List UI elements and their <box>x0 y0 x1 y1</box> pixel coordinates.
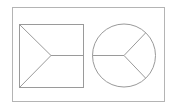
diagram-svg <box>0 0 170 106</box>
diagram-canvas <box>0 0 170 106</box>
square-shape-group <box>20 25 84 88</box>
circle-shape-group <box>93 24 156 87</box>
circle-lower-diagonal-line <box>124 56 146 79</box>
circle-upper-diagonal-line <box>124 33 146 56</box>
square-upper-diagonal-line <box>20 25 52 56</box>
square-lower-diagonal-line <box>20 56 52 88</box>
